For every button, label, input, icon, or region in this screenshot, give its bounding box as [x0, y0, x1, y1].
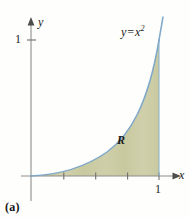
curve-equation-label: y=x2 — [121, 26, 144, 38]
curve-equation-operator: = — [126, 25, 135, 39]
curve-extension — [159, 17, 163, 40]
curve-equation-exponent: 2 — [140, 24, 144, 33]
y-axis-tick-label-1: 1 — [15, 33, 21, 45]
region-label-R: R — [117, 134, 125, 146]
plot-area — [0, 0, 190, 218]
x-axis-label: x — [179, 169, 184, 181]
figure-panel: y x 1 1 y=x2 R (a) — [0, 0, 190, 218]
y-axis — [28, 17, 35, 201]
y-axis-label: y — [38, 16, 43, 28]
x-axis-tick-label-1: 1 — [155, 183, 161, 195]
figure-caption: (a) — [5, 200, 20, 215]
